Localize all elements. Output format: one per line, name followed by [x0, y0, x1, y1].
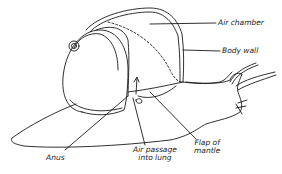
air-flow-arrow [136, 78, 137, 94]
air-chamber-dome [86, 8, 184, 82]
label-anus: Anus [46, 154, 65, 162]
snail-diagram: Air chamber Body wall Flap of mantle Anu… [0, 0, 282, 174]
label-air-passage: Air passage into lung [133, 146, 177, 162]
leader-body-wall [183, 50, 220, 51]
label-air-chamber: Air chamber [218, 19, 264, 27]
anus-marker [136, 99, 142, 104]
label-air-passage-line2: into lung [133, 154, 177, 162]
leader-air-chamber [150, 23, 216, 24]
snail-foot [12, 73, 243, 147]
leader-flap-mantle [150, 92, 196, 139]
label-flap-of-mantle: Flap of mantle [194, 139, 220, 155]
label-body-wall: Body wall [222, 47, 258, 55]
leader-air-passage [133, 98, 145, 145]
lung-boundary [108, 22, 182, 82]
tentacle-lower [238, 100, 247, 103]
label-flap-line2: mantle [194, 147, 220, 155]
